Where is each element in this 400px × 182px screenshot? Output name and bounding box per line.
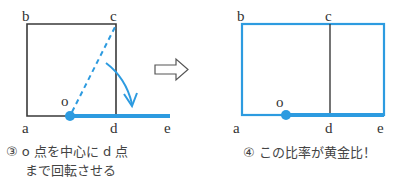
- label-b: b: [237, 8, 245, 24]
- label-c: c: [325, 8, 332, 24]
- label-d: d: [325, 120, 333, 136]
- label-a: a: [22, 120, 29, 136]
- label-c: c: [110, 8, 117, 24]
- label-d: d: [110, 120, 118, 136]
- square-outline: [27, 24, 116, 116]
- label-o: o: [61, 93, 69, 109]
- label-e: e: [164, 120, 171, 136]
- label-a: a: [233, 120, 240, 136]
- golden-ratio-diagram: b c o a d e ③ o 点を中心に d 点 まで回転させる b c o …: [0, 0, 400, 182]
- right-arrow-icon: [155, 59, 188, 80]
- golden-rectangle: [242, 24, 384, 115]
- caption-step3-line2: まで回転させる: [25, 163, 116, 178]
- caption-step4: ④ この比率が黄金比！: [243, 145, 376, 160]
- radius-dashed-line: [72, 27, 115, 112]
- rotation-arc: [106, 63, 132, 104]
- label-b: b: [22, 8, 30, 24]
- point-o: [65, 111, 75, 121]
- label-o: o: [276, 94, 284, 110]
- right-panel: b c o a d e ④ この比率が黄金比！: [233, 8, 384, 160]
- left-panel: b c o a d e ③ o 点を中心に d 点 まで回転させる: [6, 8, 171, 178]
- point-o: [281, 110, 291, 120]
- caption-step3-line1: ③ o 点を中心に d 点: [6, 144, 128, 159]
- label-e: e: [377, 120, 384, 136]
